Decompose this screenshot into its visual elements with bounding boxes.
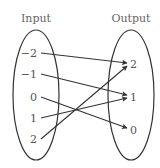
arrow-1-to-1: [41, 98, 127, 118]
input-label: −1: [21, 68, 37, 81]
arrow-0-to-0: [41, 97, 127, 128]
mapping-arrows: [41, 53, 127, 139]
input-title: Input: [21, 12, 52, 25]
input-labels: −2 −1 0 1 2: [21, 47, 37, 146]
output-labels: 2 1 0: [130, 58, 137, 137]
output-label: 2: [130, 58, 137, 71]
input-label: 0: [30, 91, 37, 104]
output-title: Output: [111, 12, 151, 25]
input-label: −2: [21, 47, 37, 60]
output-label: 0: [130, 124, 137, 137]
arrow-neg2-to-2: [41, 53, 127, 63]
mapping-diagram: Input Output −2 −1 0 1 2 2 1 0: [0, 0, 160, 168]
input-label: 2: [30, 133, 37, 146]
output-label: 1: [130, 91, 137, 104]
input-label: 1: [30, 112, 37, 125]
